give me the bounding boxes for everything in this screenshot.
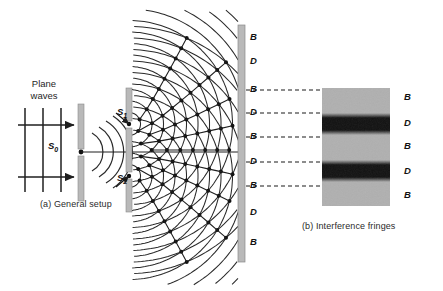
screen-label-b-8: B <box>250 237 257 248</box>
caption-panel-b: (b) Interference fringes <box>302 221 395 231</box>
fringe-band-b-0 <box>322 88 390 113</box>
label-s2-subscript: 2 <box>123 178 127 185</box>
screen-label-b-6: B <box>250 180 257 191</box>
fringe-band-b-4 <box>322 182 390 206</box>
interference-fringe-panel <box>322 88 390 206</box>
fringe-band-b-2 <box>322 135 390 160</box>
label-s2: S2 <box>117 173 127 186</box>
fringe-band-d-1 <box>322 113 390 135</box>
fringe-band-d-3 <box>322 160 390 182</box>
viewing-screen <box>238 25 245 262</box>
screen-label-d-7: D <box>250 207 257 218</box>
screen-label-d-5: D <box>250 156 257 167</box>
label-s0: S0 <box>48 141 58 154</box>
plane-waves-line-2: waves <box>20 90 68 102</box>
screen-label-d-1: D <box>250 56 257 67</box>
caption-panel-a: (a) General setup <box>40 199 112 209</box>
label-s1-subscript: 1 <box>123 112 127 119</box>
interference-wavefront-field <box>132 10 239 285</box>
fringe-label-b-2: B <box>404 141 411 152</box>
label-s1: S1 <box>117 107 127 120</box>
fringe-connector-lines <box>246 90 322 186</box>
wavefront-arc-s2 <box>133 61 239 284</box>
plane-waves-label: Plane waves <box>20 78 68 101</box>
figure-root: Plane waves S0 S1 S2 (a) General setup B… <box>0 0 443 291</box>
screen-label-b-4: B <box>250 131 257 142</box>
screen-label-b-0: B <box>250 32 257 43</box>
screen-label-d-3: D <box>250 107 257 118</box>
plane-wave-direction-arrows <box>18 125 74 177</box>
plane-waves-line-1: Plane <box>20 78 68 90</box>
fringe-label-d-1: D <box>404 118 411 129</box>
screen-label-b-2: B <box>250 84 257 95</box>
fringe-label-d-3: D <box>404 166 411 177</box>
wavefront-arc-s1 <box>132 90 163 159</box>
label-s0-subscript: 0 <box>54 146 58 153</box>
fringe-label-b-4: B <box>404 190 411 201</box>
fringe-label-b-0: B <box>404 92 411 103</box>
